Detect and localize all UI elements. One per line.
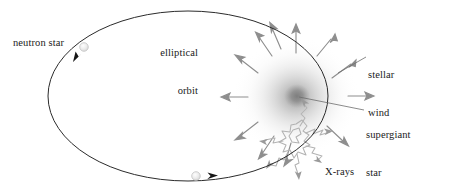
- astronomy-diagram: neutron star elliptical orbit stellar wi…: [0, 0, 457, 194]
- label-stellar-wind-line1: stellar: [368, 69, 394, 82]
- label-elliptical-orbit-line1: elliptical: [140, 47, 198, 60]
- motion-arrow-upper-left: [73, 51, 82, 62]
- label-supergiant-star-line1: supergiant: [366, 129, 411, 142]
- supergiant-star-core: [284, 84, 310, 108]
- label-neutron-star: neutron star: [13, 37, 64, 50]
- neutron-star-marker-lower: [192, 172, 201, 181]
- label-supergiant-star-line2: star: [366, 167, 411, 180]
- label-supergiant-star: supergiant star: [366, 104, 411, 194]
- motion-arrow-bottom: [207, 172, 218, 179]
- xray-arrow-down: [295, 171, 302, 180]
- label-elliptical-orbit-line2: orbit: [140, 85, 198, 98]
- neutron-star-marker-upper: [80, 43, 89, 52]
- xray-ray-down: [295, 154, 299, 174]
- label-elliptical-orbit: elliptical orbit: [140, 22, 198, 122]
- label-xrays: X-rays: [325, 166, 354, 179]
